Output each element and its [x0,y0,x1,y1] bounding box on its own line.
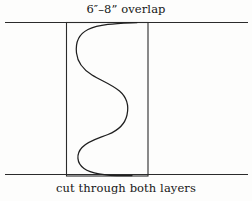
cut-instruction-caption: cut through both layers [0,181,252,195]
wavy-cut-line [76,23,137,176]
diagram-canvas [0,0,252,201]
overlap-cut-diagram: 6″–8” overlap cut through both layers [0,0,252,201]
